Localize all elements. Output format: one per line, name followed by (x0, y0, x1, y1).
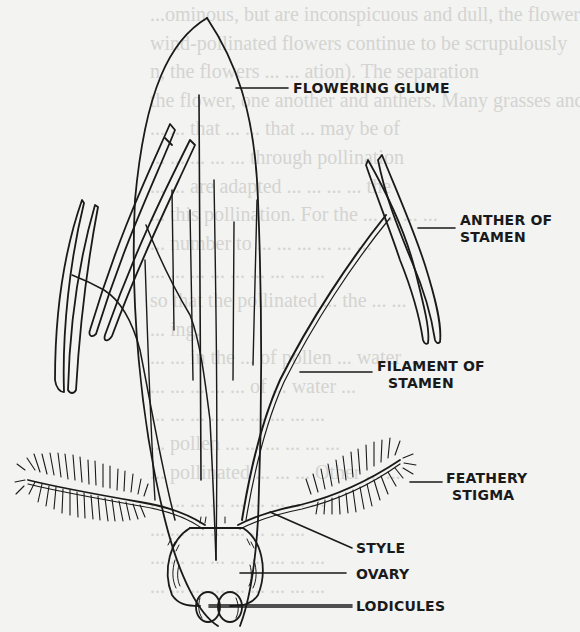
anther-left-outer (55, 200, 175, 520)
label-filament-line1: FILAMENT OF (377, 358, 485, 375)
filament (242, 215, 390, 520)
label-ovary-text: OVARY (356, 566, 409, 582)
label-ovary: OVARY (356, 566, 409, 583)
label-style: STYLE (356, 540, 405, 557)
label-filament-of-stamen: FILAMENT OF STAMEN (377, 358, 485, 392)
anther-right (366, 155, 440, 344)
label-feathery-stigma: FEATHERY STIGMA (446, 470, 527, 504)
label-lodicules: LODICULES (356, 598, 445, 615)
label-anther-line1: ANTHER OF (460, 212, 552, 229)
label-flowering-glume: FLOWERING GLUME (293, 80, 450, 97)
label-stigma-line1: FEATHERY (446, 470, 527, 487)
label-style-text: STYLE (356, 540, 405, 556)
anther-left-inner (89, 124, 216, 560)
flowering-glume-shape (134, 18, 261, 626)
label-flowering-glume-text: FLOWERING GLUME (293, 80, 450, 96)
label-anther-line2: STAMEN (460, 229, 552, 246)
label-anther-of-stamen: ANTHER OF STAMEN (460, 212, 552, 246)
feathery-stigma-right (238, 438, 416, 529)
feathery-stigma-left (15, 453, 205, 529)
label-filament-line2: STAMEN (377, 375, 485, 392)
label-stigma-line2: STIGMA (446, 487, 527, 504)
leader-style (270, 512, 352, 548)
label-lodicules-text: LODICULES (356, 598, 445, 614)
